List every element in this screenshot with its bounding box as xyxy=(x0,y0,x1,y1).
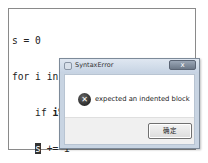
syntax-error-dialog: SyntaxError x ✕ expected an indented blo… xyxy=(59,58,200,149)
dialog-body: ✕ expected an indented block 确定 xyxy=(64,74,195,145)
ok-button[interactable]: 确定 xyxy=(148,123,192,139)
error-message: expected an indented block xyxy=(95,95,190,103)
code-line-1: s = 0 xyxy=(12,35,145,47)
code-text: s = 0 xyxy=(12,35,41,46)
dialog-title: SyntaxError xyxy=(75,61,113,69)
code-text: if xyxy=(12,107,52,118)
app-icon xyxy=(64,62,72,70)
dialog-footer: 确定 xyxy=(65,117,194,144)
close-button[interactable]: x xyxy=(169,60,196,70)
code-indent xyxy=(12,143,35,154)
dialog-titlebar[interactable]: SyntaxError x xyxy=(60,59,199,73)
error-icon: ✕ xyxy=(78,93,91,106)
